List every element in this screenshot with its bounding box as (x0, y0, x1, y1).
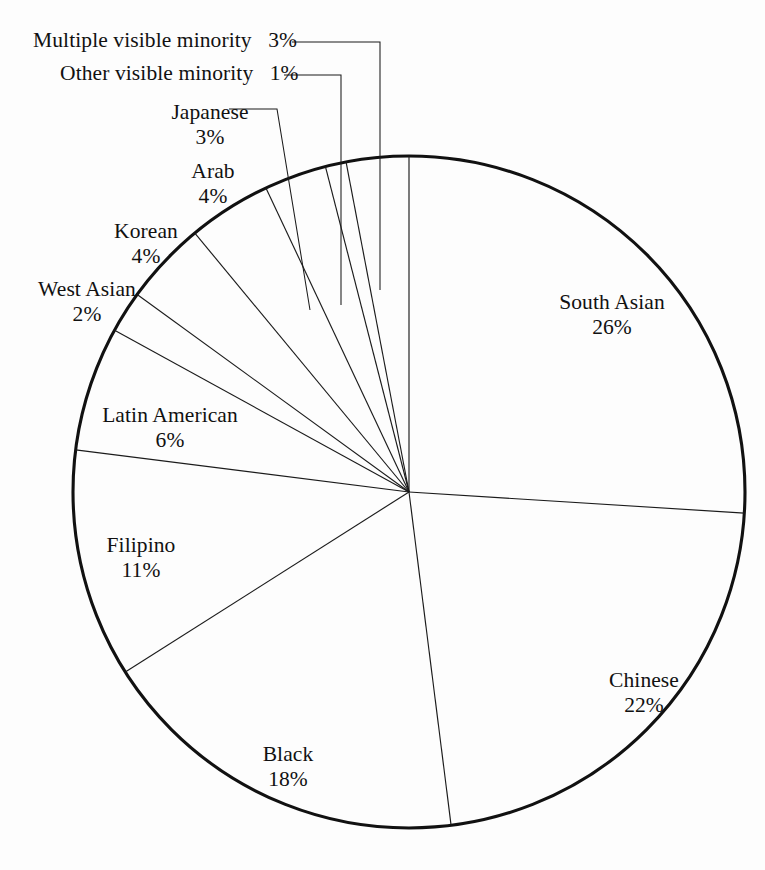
slice-name-japanese: Japanese (150, 100, 270, 125)
slice-percent-south-asian: 26% (537, 315, 687, 340)
slice-percent-black: 18% (243, 767, 333, 792)
slice-name-chinese: Chinese (589, 668, 699, 693)
slice-label-korean: Korean 4% (96, 219, 196, 270)
slice-label-filipino: Filipino 11% (86, 533, 196, 584)
slice-label-other-visible-minority: Other visible minority 1% (60, 61, 299, 86)
slice-name-south-asian: South Asian (537, 290, 687, 315)
slice-percent-arab: 4% (168, 184, 258, 209)
slice-label-japanese: Japanese 3% (150, 100, 270, 151)
slice-label-multiple-visible-minority: Multiple visible minority 3% (33, 28, 297, 53)
slice-label-latin-american: Latin American 6% (90, 403, 250, 454)
slice-name-multiple-visible-minority: Multiple visible minority (33, 28, 252, 52)
slice-name-arab: Arab (168, 159, 258, 184)
divider-japanese-other (325, 167, 409, 492)
slice-label-south-asian: South Asian 26% (537, 290, 687, 341)
slice-name-korean: Korean (96, 219, 196, 244)
slice-percent-west-asian: 2% (22, 302, 152, 327)
slice-percent-latin-american: 6% (90, 428, 250, 453)
slice-name-filipino: Filipino (86, 533, 196, 558)
slice-percent-multiple-visible-minority: 3% (268, 28, 297, 52)
slice-name-black: Black (243, 742, 333, 767)
slice-label-west-asian: West Asian 2% (22, 277, 152, 328)
slice-percent-chinese: 22% (589, 693, 699, 718)
leader-line-multiple (292, 42, 380, 290)
slice-percent-other-visible-minority: 1% (270, 61, 299, 85)
leader-line-other (284, 75, 341, 305)
slice-label-arab: Arab 4% (168, 159, 258, 210)
slice-name-other-visible-minority: Other visible minority (60, 61, 253, 85)
slice-name-west-asian: West Asian (22, 277, 152, 302)
slice-label-chinese: Chinese 22% (589, 668, 699, 719)
divider-chinese-black (409, 492, 451, 825)
slice-percent-korean: 4% (96, 244, 196, 269)
slice-percent-japanese: 3% (150, 125, 270, 150)
divider-southasian-chinese (409, 492, 744, 513)
slice-name-latin-american: Latin American (90, 403, 250, 428)
pie-chart-figure: Multiple visible minority 3% Other visib… (0, 0, 765, 870)
divider-arab-japanese (266, 188, 409, 492)
divider-other-multiple (346, 162, 409, 492)
slice-percent-filipino: 11% (86, 558, 196, 583)
slice-label-black: Black 18% (243, 742, 333, 793)
